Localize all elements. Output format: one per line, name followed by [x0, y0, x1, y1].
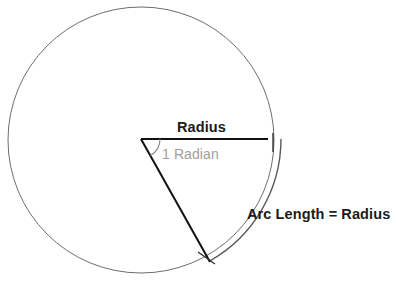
- radius-label: Radius: [177, 120, 226, 135]
- arc-length-arc: [209, 139, 281, 261]
- angle-marker-arc: [150, 139, 160, 156]
- diagram-canvas: [0, 0, 396, 284]
- radian-diagram-figure: Radius 1 Radian Arc Length = Radius: [0, 0, 396, 284]
- one-radian-label: 1 Radian: [162, 147, 219, 161]
- arc-length-label: Arc Length = Radius: [247, 207, 390, 222]
